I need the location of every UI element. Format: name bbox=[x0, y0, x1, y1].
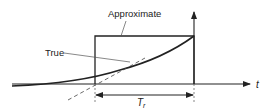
pulse-approximation-diagram: t Approximate True Tr bbox=[0, 0, 275, 112]
time-axis-label: t bbox=[256, 79, 260, 90]
true-label: True bbox=[45, 47, 64, 58]
time-axis: t bbox=[12, 79, 260, 90]
true-annotation: True bbox=[45, 47, 130, 62]
approximate-pulse bbox=[95, 36, 194, 84]
rise-time-dimension: Tr bbox=[95, 84, 194, 109]
rise-time-label-sub: r bbox=[143, 102, 146, 109]
rise-time-label: Tr bbox=[137, 97, 146, 109]
true-curve bbox=[12, 36, 194, 86]
approximate-annotation: Approximate bbox=[108, 8, 161, 36]
approximate-label: Approximate bbox=[108, 8, 161, 19]
